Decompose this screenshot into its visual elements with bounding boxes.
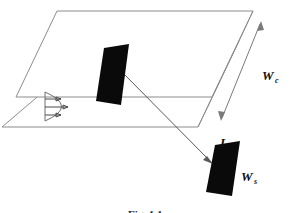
dimension-arrowhead-bottom <box>218 111 225 121</box>
label-sensor-length: L <box>219 135 228 150</box>
label-channel-width: W c <box>262 68 279 85</box>
label-sensor-width: W s <box>241 169 257 186</box>
callout-arrowhead <box>203 156 213 164</box>
flow-channel-diagram: W c L W s Fig. 1.1 <box>0 0 292 213</box>
dimension-arrowhead-top <box>257 21 264 31</box>
figure-caption: Fig. 1.1 <box>128 208 163 213</box>
figure-container: W c L W s Fig. 1.1 <box>0 0 292 213</box>
sensor-length-symbol: L <box>219 135 228 150</box>
sensor-width-symbol: W <box>241 169 254 184</box>
sensor-width-subscript: s <box>253 177 257 186</box>
channel-width-symbol: W <box>262 68 275 83</box>
figure-caption-text: Fig. 1.1 <box>128 208 163 213</box>
channel-width-subscript: c <box>275 76 279 85</box>
